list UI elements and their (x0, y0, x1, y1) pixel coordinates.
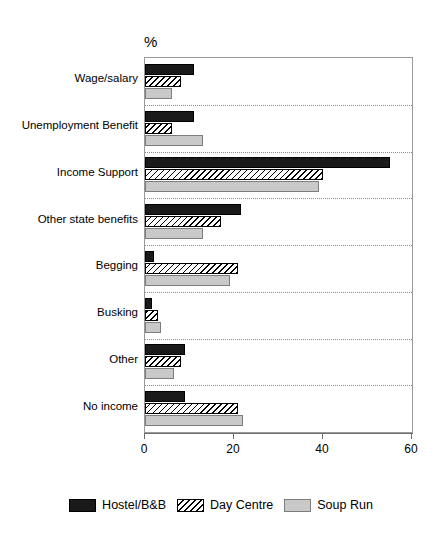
gridline (145, 152, 412, 153)
bar-gray (145, 275, 230, 286)
x-tick (233, 434, 234, 439)
legend-item: Day Centre (177, 498, 273, 512)
category-label: Wage/salary (0, 72, 138, 84)
bar-hatch (145, 310, 158, 321)
gridline (145, 292, 412, 293)
bar-black (145, 391, 185, 402)
gridline (145, 245, 412, 246)
x-tick (322, 434, 323, 439)
bar-black (145, 344, 185, 355)
legend-label: Soup Run (317, 498, 373, 512)
gridline (145, 385, 412, 386)
bar-black (145, 111, 194, 122)
x-tick (411, 434, 412, 439)
x-tick (144, 434, 145, 439)
legend-swatch-black (69, 499, 96, 512)
chart-legend: Hostel/B&BDay CentreSoup Run (0, 498, 442, 512)
bar-black (145, 298, 152, 309)
bar-hatch (145, 356, 181, 367)
bar-black (145, 251, 154, 262)
bar-hatch (145, 123, 172, 134)
legend-label: Hostel/B&B (102, 498, 166, 512)
x-tick-label: 40 (315, 442, 328, 456)
bar-black (145, 157, 390, 168)
bar-hatch (145, 216, 221, 227)
legend-item: Hostel/B&B (69, 498, 166, 512)
x-tick-label: 0 (141, 442, 148, 456)
bar-hatch (145, 169, 323, 180)
x-tick-label: 60 (404, 442, 417, 456)
category-label: Begging (0, 259, 138, 271)
category-label: Income Support (0, 166, 138, 178)
category-label: Other (0, 353, 138, 365)
bar-gray (145, 415, 243, 426)
gridline (145, 198, 412, 199)
bar-black (145, 204, 241, 215)
legend-label: Day Centre (210, 498, 273, 512)
bar-hatch (145, 263, 238, 274)
bar-gray (145, 368, 174, 379)
bar-black (145, 64, 194, 75)
bar-gray (145, 181, 319, 192)
axis-unit-label: % (144, 33, 158, 50)
x-tick-label: 20 (226, 442, 239, 456)
category-label: Busking (0, 306, 138, 318)
gridline (145, 105, 412, 106)
category-label: Unemployment Benefit (0, 119, 138, 131)
chart-root: % Wage/salaryUnemployment BenefitIncome … (0, 0, 442, 541)
bar-gray (145, 322, 161, 333)
gridline (145, 339, 412, 340)
plot-area (144, 57, 413, 433)
bar-hatch (145, 76, 181, 87)
bar-gray (145, 88, 172, 99)
x-axis: 0204060 (144, 433, 413, 434)
category-label: Other state benefits (0, 213, 138, 225)
bar-gray (145, 228, 203, 239)
legend-swatch-hatch (177, 499, 204, 512)
bar-hatch (145, 403, 238, 414)
bar-gray (145, 135, 203, 146)
category-label: No income (0, 400, 138, 412)
legend-item: Soup Run (284, 498, 373, 512)
legend-swatch-gray (284, 499, 311, 512)
